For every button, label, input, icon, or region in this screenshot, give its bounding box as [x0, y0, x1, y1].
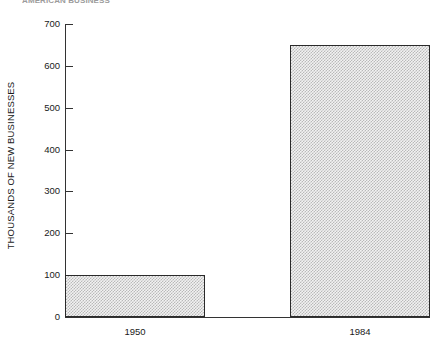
- y-tick-mark: [66, 317, 73, 318]
- y-tick-label: 400: [44, 145, 60, 155]
- y-tick-label: 300: [44, 187, 60, 197]
- y-tick-mark: [66, 150, 73, 151]
- y-axis-line: [65, 24, 66, 318]
- y-tick-mark: [66, 108, 73, 109]
- y-tick-mark: [66, 66, 73, 67]
- x-tick-label: 1950: [124, 326, 145, 337]
- y-tick-label: 600: [44, 61, 60, 71]
- top-caption: AMERICAN BUSINESS: [22, 0, 322, 4]
- y-tick-label: 700: [44, 19, 60, 29]
- plot-area: 0100200300400500600700 19501984: [65, 24, 430, 318]
- y-axis-title: THOUSANDS OF NEW BUSINESSES: [0, 0, 22, 330]
- x-tick-label: 1984: [349, 326, 370, 337]
- y-tick-label: 0: [55, 312, 60, 322]
- y-axis-title-label: THOUSANDS OF NEW BUSINESSES: [6, 81, 17, 249]
- bar-chart: AMERICAN BUSINESS THOUSANDS OF NEW BUSIN…: [0, 0, 444, 349]
- x-axis-line: [65, 317, 430, 318]
- y-tick-mark: [66, 24, 73, 25]
- y-tick-mark: [66, 191, 73, 192]
- y-tick-label: 200: [44, 229, 60, 239]
- y-tick-mark: [66, 233, 73, 234]
- bar: [65, 275, 205, 317]
- bar: [290, 45, 430, 317]
- y-tick-label: 100: [44, 270, 60, 280]
- y-tick-label: 500: [44, 103, 60, 113]
